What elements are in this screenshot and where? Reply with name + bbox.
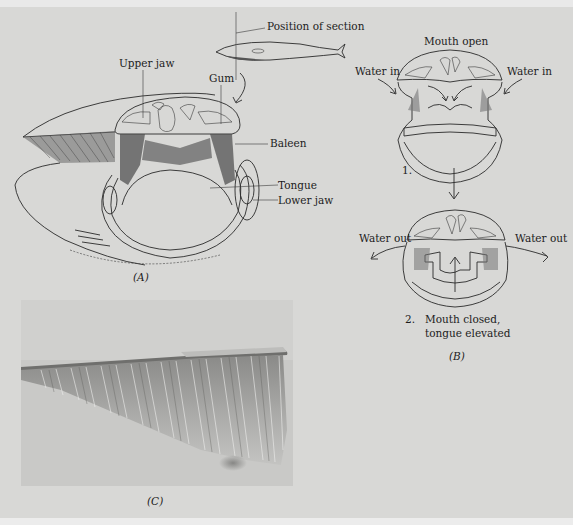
- caption-b: (B): [449, 351, 465, 362]
- label-position-of-section: Position of section: [267, 21, 364, 32]
- label-mouth-closed: Mouth closed,: [425, 314, 500, 325]
- label-water-out-right: Water out: [515, 233, 567, 244]
- diagram-drawings: [0, 0, 573, 525]
- label-gum: Gum: [209, 73, 234, 84]
- caption-a: (A): [133, 272, 149, 283]
- label-water-out-left: Water out: [359, 233, 411, 244]
- label-baleen: Baleen: [270, 138, 307, 149]
- label-lower-jaw: Lower jaw: [278, 195, 333, 206]
- label-step-1: 1.: [402, 165, 412, 176]
- mouth-closed-diagram: [371, 210, 548, 307]
- label-upper-jaw: Upper jaw: [119, 58, 174, 69]
- label-water-in-right: Water in: [507, 66, 552, 77]
- caption-c: (C): [147, 496, 163, 507]
- label-step-2: 2.: [405, 314, 415, 325]
- label-mouth-open: Mouth open: [424, 36, 488, 47]
- label-water-in-left: Water in: [355, 66, 400, 77]
- label-tongue-elevated: tongue elevated: [425, 328, 510, 339]
- label-tongue: Tongue: [278, 180, 317, 191]
